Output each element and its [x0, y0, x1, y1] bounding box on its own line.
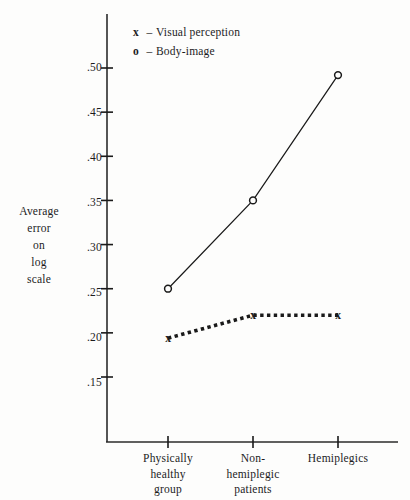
chart-figure: Average error on log scale .50 .45 .40 .… [0, 0, 410, 500]
series-visual-perception: xxx [165, 309, 341, 344]
data-point-marker-circle [335, 72, 342, 79]
data-point-marker-x: x [165, 332, 171, 344]
series-line-body-image [168, 75, 338, 289]
data-point-marker-x: x [335, 309, 341, 321]
data-point-marker-circle [250, 197, 257, 204]
data-point-marker-circle [165, 285, 172, 292]
axes [106, 14, 398, 442]
data-point-marker-x: x [250, 309, 256, 321]
series-body-image [165, 72, 342, 292]
plot-area: xxx [0, 0, 410, 500]
